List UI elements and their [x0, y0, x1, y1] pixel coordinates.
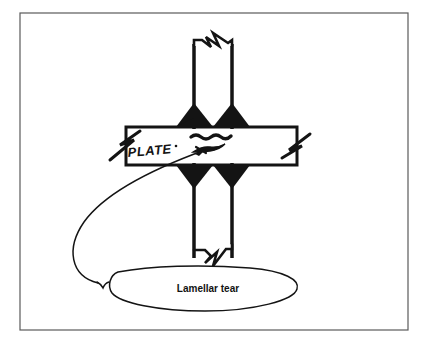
- figure-root: PLATE Lamellar tear: [0, 0, 422, 347]
- lamellar-tear-diagram: PLATE Lamellar tear: [0, 0, 422, 347]
- plate-label-dot: [175, 145, 178, 148]
- callout-label: Lamellar tear: [177, 283, 239, 294]
